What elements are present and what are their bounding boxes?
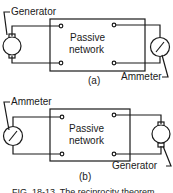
box-label-b-2: network [69,135,105,146]
ammeter-label-a: Ammeter [121,71,162,82]
ammeter-icon-a [151,38,170,57]
box-label-b-1: Passive [69,123,104,134]
generator-icon-b [152,122,170,147]
ammeter-label-b: Ammeter [11,96,52,107]
sublabel-b: (b) [79,171,91,182]
ammeter-icon-b [4,127,23,146]
figure-caption: FIG. 18-13. The reciprocity theorem [12,187,154,193]
box-label-a-1: Passive [70,32,105,43]
reciprocity-diagram: Generator Passive network Ammeter (a) Am… [0,0,173,193]
box-label-a-2: network [69,44,105,55]
generator-icon-a [3,34,21,58]
generator-label-a: Generator [11,6,57,17]
panel-b [4,102,172,166]
generator-label-b: Generator [112,160,158,171]
sublabel-a: (a) [88,75,100,86]
